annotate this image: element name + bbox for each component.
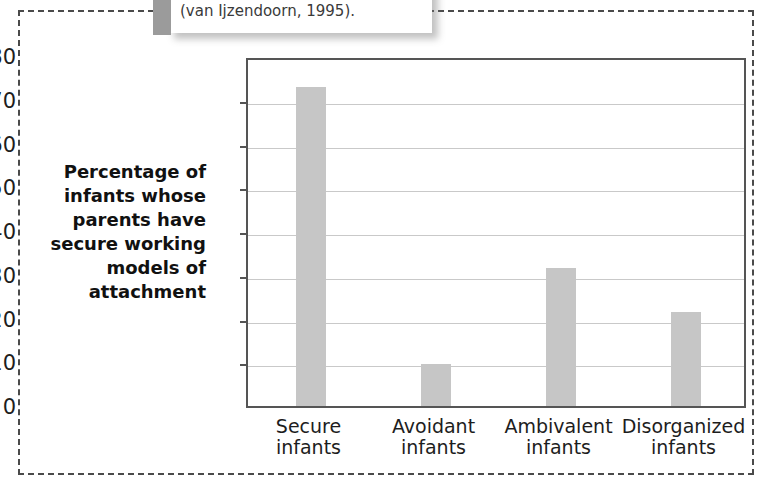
y-tick-label: 70 — [0, 91, 16, 112]
x-tick-label-line: Secure — [246, 416, 371, 437]
y-tick-label: 20 — [0, 310, 16, 331]
x-tick-label-line: Ambivalent — [496, 416, 621, 437]
y-tick-label: 60 — [0, 135, 16, 156]
bar — [671, 312, 701, 406]
x-tick-label: Secureinfants — [246, 416, 371, 459]
x-tick-label-line: Avoidant — [371, 416, 496, 437]
plot-area — [246, 58, 746, 408]
y-tick-label: 0 — [0, 397, 16, 418]
x-tick-label-line: infants — [496, 437, 621, 458]
bar-chart: Percentage of infants whose parents have… — [0, 0, 770, 488]
bar — [546, 268, 576, 406]
y-tick-label: 50 — [0, 178, 16, 199]
x-tick-label-line: infants — [621, 437, 746, 458]
y-tick-label: 80 — [0, 47, 16, 68]
y-axis-title: Percentage of infants whose parents have… — [8, 160, 206, 304]
bar — [296, 87, 326, 406]
x-tick-label: Disorganizedinfants — [621, 416, 746, 459]
y-tick-label: 30 — [0, 266, 16, 287]
callout-citation-text: (van Ijzendoorn, 1995). — [180, 2, 355, 20]
callout-box: (van Ijzendoorn, 1995). — [168, 0, 432, 33]
x-tick-label-line: Disorganized — [621, 416, 746, 437]
bar — [421, 364, 451, 406]
y-tick-label: 40 — [0, 222, 16, 243]
x-tick-label: Avoidantinfants — [371, 416, 496, 459]
x-tick-label-line: infants — [371, 437, 496, 458]
y-tick-label: 10 — [0, 353, 16, 374]
callout-side-tab — [153, 0, 171, 35]
x-tick-label: Ambivalentinfants — [496, 416, 621, 459]
x-tick-label-line: infants — [246, 437, 371, 458]
figure-page: Percentage of infants whose parents have… — [0, 0, 770, 488]
